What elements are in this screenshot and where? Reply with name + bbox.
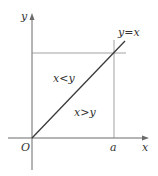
x-axis-label: x — [142, 141, 149, 154]
y-axis-label: y — [20, 10, 28, 23]
diagonal-line-y-equals-x — [32, 41, 125, 138]
coordinate-diagram: y y=x x<y x>y O a x — [0, 0, 158, 176]
x-axis-arrow-icon — [142, 136, 149, 141]
origin-label: O — [21, 141, 30, 154]
region-label-upper: x<y — [53, 72, 75, 85]
x-marker-label: a — [110, 141, 117, 154]
line-label: y=x — [117, 26, 140, 39]
y-axis-arrow-icon — [30, 13, 35, 20]
region-label-lower: x>y — [74, 106, 96, 119]
